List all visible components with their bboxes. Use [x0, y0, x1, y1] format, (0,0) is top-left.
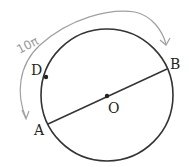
- label-d: D: [31, 62, 42, 78]
- point-d: [44, 75, 48, 79]
- circle-diagram: 10π D B A O: [0, 0, 189, 167]
- arc-length-label: 10π: [14, 34, 40, 57]
- arrowhead-bottom-icon: [22, 110, 29, 119]
- label-b: B: [170, 56, 180, 72]
- label-o: O: [108, 100, 119, 116]
- center-point-o: [105, 94, 109, 98]
- label-a: A: [33, 122, 45, 138]
